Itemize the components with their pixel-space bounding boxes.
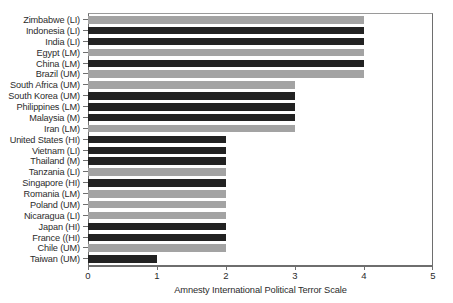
x-axis-tick-label: 1	[154, 270, 159, 281]
bar-row	[88, 178, 433, 188]
bar	[88, 38, 364, 46]
bar-row	[88, 167, 433, 177]
bar-row	[88, 80, 433, 90]
bar	[88, 223, 226, 231]
y-axis-label: Japan (HI)	[0, 222, 80, 232]
y-axis-label: Indonesia (LI)	[0, 26, 80, 36]
bar-row	[88, 37, 433, 47]
bar-row	[88, 102, 433, 112]
bar-row	[88, 156, 433, 166]
bar	[88, 81, 295, 89]
y-axis-label: Nicaragua (LI)	[0, 211, 80, 221]
y-axis-label: Singapore (HI)	[0, 178, 80, 188]
y-axis-label: Vietnam (LI)	[0, 146, 80, 156]
bar	[88, 49, 364, 57]
y-axis-label: Zimbabwe (LI)	[0, 15, 80, 25]
bar	[88, 16, 364, 24]
bar-row	[88, 69, 433, 79]
y-axis-label: Taiwan (UM)	[0, 254, 80, 264]
bar	[88, 103, 295, 111]
bar-rows	[88, 14, 433, 265]
y-axis-label: Malaysia (M)	[0, 113, 80, 123]
y-axis-label: Philippines (LM)	[0, 102, 80, 112]
y-axis-label: France ((HI)	[0, 233, 80, 243]
x-axis-tick-label: 2	[223, 270, 228, 281]
y-axis-label: South Africa (UM)	[0, 80, 80, 90]
bar	[88, 92, 295, 100]
y-axis-label: China (LM)	[0, 59, 80, 69]
x-axis-line	[88, 266, 433, 267]
y-axis-label: India (LI)	[0, 37, 80, 47]
bar-row	[88, 113, 433, 123]
bar-row	[88, 135, 433, 145]
x-axis-tick-label: 5	[430, 270, 435, 281]
bar-row	[88, 243, 433, 253]
bar	[88, 136, 226, 144]
y-axis-label: Poland (UM)	[0, 200, 80, 210]
y-axis-label: Iran (LM)	[0, 124, 80, 134]
bar-row	[88, 59, 433, 69]
bar-row	[88, 200, 433, 210]
bar-row	[88, 124, 433, 134]
x-axis-tick-label: 4	[361, 270, 366, 281]
bar	[88, 201, 226, 209]
y-axis-label: South Korea (UM)	[0, 91, 80, 101]
x-axis-title: Amnesty International Political Terror S…	[88, 285, 433, 295]
y-axis-label: Chile (UM)	[0, 243, 80, 253]
bar-row	[88, 189, 433, 199]
bar	[88, 60, 364, 68]
chart-page: Zimbabwe (LI)Indonesia (LI)India (LI)Egy…	[0, 0, 453, 303]
y-axis-label: Thailand (M)	[0, 156, 80, 166]
bar-row	[88, 91, 433, 101]
bar	[88, 234, 226, 242]
y-axis-label: Tanzania (LI)	[0, 167, 80, 177]
y-axis-label: Egypt (LM)	[0, 48, 80, 58]
bar-row	[88, 15, 433, 25]
bar	[88, 190, 226, 198]
x-axis-tick-label: 0	[85, 270, 90, 281]
bar	[88, 244, 226, 252]
bar-row	[88, 146, 433, 156]
y-axis-label: Brazil (UM)	[0, 69, 80, 79]
bar	[88, 147, 226, 155]
bar-row	[88, 254, 433, 264]
bar	[88, 212, 226, 220]
bar	[88, 70, 364, 78]
y-axis-labels: Zimbabwe (LI)Indonesia (LI)India (LI)Egy…	[0, 14, 80, 265]
y-axis-label: Romania (LM)	[0, 189, 80, 199]
bar-row	[88, 222, 433, 232]
x-axis-tick-label: 3	[292, 270, 297, 281]
bar	[88, 114, 295, 122]
bar	[88, 168, 226, 176]
bar-row	[88, 48, 433, 58]
bar	[88, 27, 364, 35]
bar-row	[88, 211, 433, 221]
y-axis-label: United States (HI)	[0, 135, 80, 145]
bar-row	[88, 233, 433, 243]
bar-row	[88, 26, 433, 36]
bar	[88, 179, 226, 187]
bar	[88, 255, 157, 263]
bar	[88, 125, 295, 133]
bar	[88, 157, 226, 165]
